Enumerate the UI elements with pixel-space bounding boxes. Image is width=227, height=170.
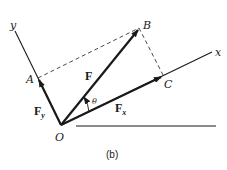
- point-label-b: B: [142, 19, 151, 32]
- vector-fy-subscript: y: [40, 111, 45, 120]
- angle-arc-theta: [84, 97, 89, 112]
- point-label-c: C: [164, 78, 173, 91]
- point-label-a: A: [25, 73, 34, 86]
- vector-fy-label-main: F: [34, 104, 41, 118]
- x-axis-label: x: [215, 46, 222, 59]
- vector-fx-subscript: x: [121, 108, 126, 117]
- force-decomposition-diagram: y x A B C O F Fx Fy θ (b): [0, 0, 227, 170]
- vector-fy-label: Fy: [34, 104, 45, 120]
- angle-label-theta: θ: [92, 97, 97, 106]
- vector-fx: [61, 77, 161, 125]
- vector-fx-label-main: F: [115, 101, 122, 115]
- y-axis-label: y: [9, 19, 17, 32]
- point-label-origin: O: [55, 131, 64, 144]
- vector-f-label: F: [85, 69, 92, 83]
- figure-caption: (b): [106, 149, 118, 160]
- vector-f: [61, 30, 138, 125]
- dashed-line-b-to-c: [139, 28, 163, 75]
- vector-fx-label: Fx: [115, 101, 126, 117]
